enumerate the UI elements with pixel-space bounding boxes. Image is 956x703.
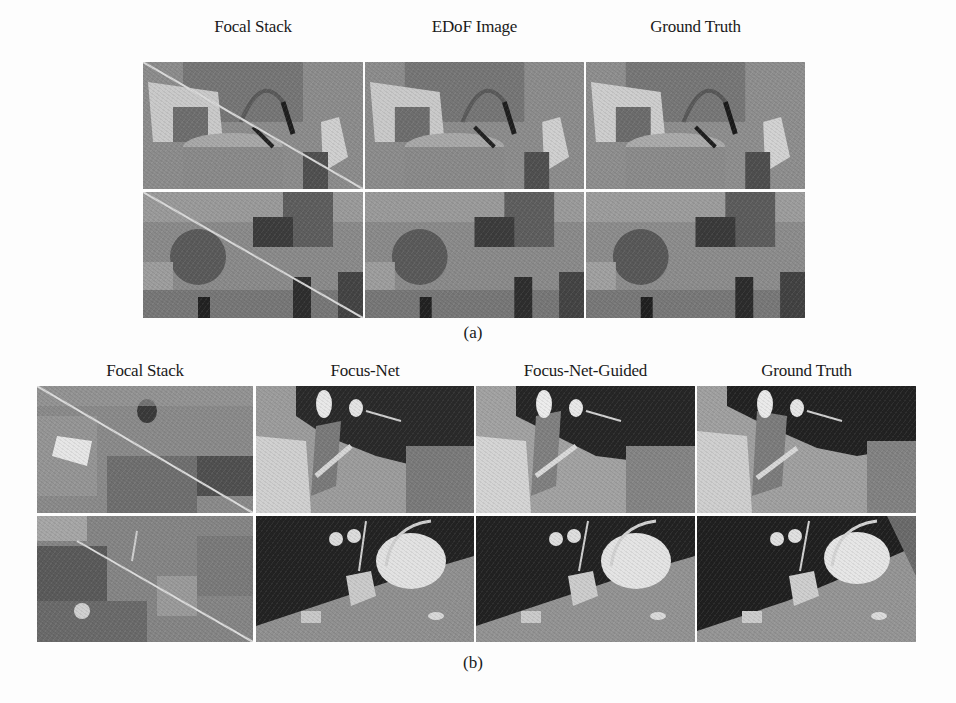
caption-a: (a) xyxy=(423,323,523,343)
header-focus-net-guided: Focus-Net-Guided xyxy=(476,361,695,381)
header-focal-stack-b: Focal Stack xyxy=(37,361,253,381)
image-b-focal-stack-row2 xyxy=(37,516,253,642)
image-b-focus-net-row1 xyxy=(256,386,474,513)
header-focal-stack-a: Focal Stack xyxy=(143,17,363,37)
image-a-ground-truth-row1 xyxy=(586,62,805,189)
image-b-focus-net-guided-row2 xyxy=(476,516,695,642)
image-b-ground-truth-row2 xyxy=(697,516,916,642)
image-a-edof-row2 xyxy=(365,192,584,318)
image-b-focal-stack-row1 xyxy=(37,386,253,513)
header-focus-net: Focus-Net xyxy=(256,361,474,381)
image-b-focus-net-guided-row1 xyxy=(476,386,695,513)
image-a-edof-row1 xyxy=(365,62,584,189)
header-edof-image: EDoF Image xyxy=(365,17,584,37)
caption-b: (b) xyxy=(423,653,523,673)
image-a-focal-stack-row1 xyxy=(143,62,363,189)
image-a-focal-stack-row2 xyxy=(143,192,363,318)
header-ground-truth-a: Ground Truth xyxy=(586,17,805,37)
image-a-ground-truth-row2 xyxy=(586,192,805,318)
image-b-focus-net-row2 xyxy=(256,516,474,642)
image-b-ground-truth-row1 xyxy=(697,386,916,513)
header-ground-truth-b: Ground Truth xyxy=(697,361,916,381)
